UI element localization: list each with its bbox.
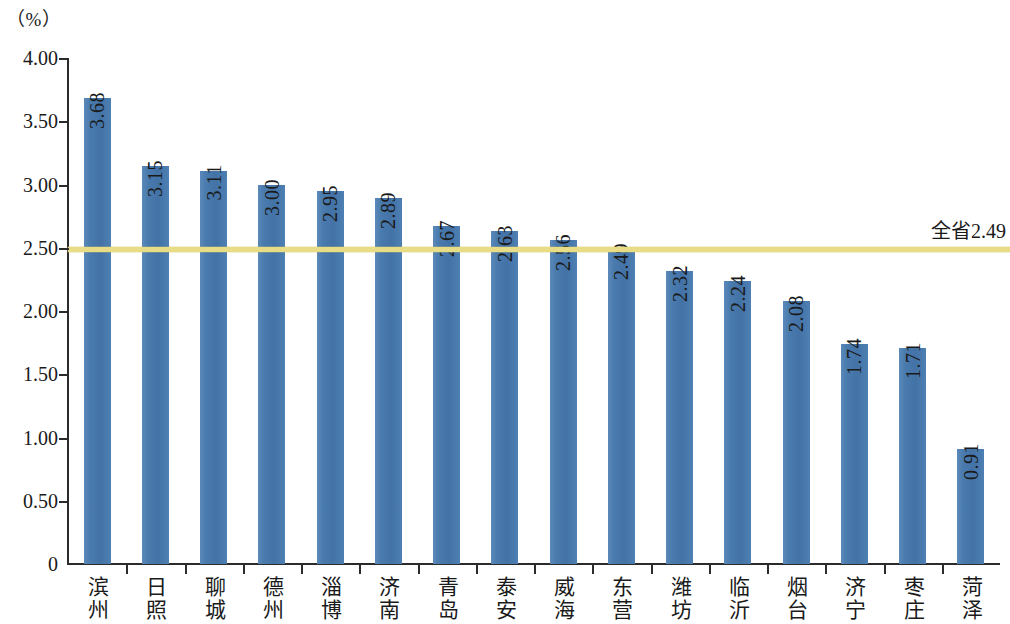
x-axis-tick bbox=[301, 563, 303, 574]
x-axis-category-label: 临沂 bbox=[718, 576, 758, 621]
bar-value-label: 2.32 bbox=[670, 265, 690, 302]
y-axis-tick bbox=[59, 501, 69, 503]
category-label-text: 烟台 bbox=[785, 576, 807, 621]
x-axis-category-label: 日照 bbox=[135, 576, 175, 621]
x-axis-category-label: 枣庄 bbox=[893, 576, 933, 621]
y-axis-tick-label: 2.00 bbox=[0, 301, 58, 321]
x-axis-category-label: 滨州 bbox=[77, 576, 117, 621]
bar[interactable] bbox=[608, 249, 635, 564]
x-axis-category-label: 德州 bbox=[252, 576, 292, 621]
x-axis-tick bbox=[767, 563, 769, 574]
category-label-text: 菏泽 bbox=[960, 576, 982, 621]
x-axis-tick bbox=[709, 563, 711, 574]
bar[interactable] bbox=[433, 226, 460, 564]
y-axis-tick bbox=[59, 438, 69, 440]
bar[interactable] bbox=[783, 301, 810, 564]
category-label-text: 滨州 bbox=[86, 576, 108, 621]
x-axis-tick bbox=[185, 563, 187, 574]
x-axis-tick bbox=[359, 563, 361, 574]
category-label-text: 青岛 bbox=[436, 576, 458, 621]
y-axis-tick bbox=[59, 374, 69, 376]
category-label-text: 东营 bbox=[610, 576, 632, 621]
x-axis-tick bbox=[884, 563, 886, 574]
bar-value-label: 2.95 bbox=[320, 185, 340, 222]
x-axis-tick bbox=[534, 563, 536, 574]
category-label-text: 临沂 bbox=[727, 576, 749, 621]
x-axis-tick bbox=[825, 563, 827, 574]
category-label-text: 泰安 bbox=[494, 576, 516, 621]
x-axis-tick bbox=[243, 563, 245, 574]
y-axis-tick-label: 0 bbox=[0, 554, 58, 574]
bar[interactable] bbox=[724, 281, 751, 564]
chart-page: （%） 00.501.001.502.002.503.003.504.00 3.… bbox=[0, 0, 1010, 624]
x-axis-tick bbox=[651, 563, 653, 574]
category-label-text: 德州 bbox=[261, 576, 283, 621]
category-label-text: 威海 bbox=[552, 576, 574, 621]
category-label-text: 枣庄 bbox=[902, 576, 924, 621]
bar-value-label: 3.11 bbox=[204, 165, 224, 201]
bar[interactable] bbox=[550, 240, 577, 564]
category-label-text: 聊城 bbox=[203, 576, 225, 621]
plot-area: 3.683.153.113.002.952.892.672.632.562.49… bbox=[68, 58, 1000, 564]
average-reference-label: 全省2.49 bbox=[0, 221, 1006, 241]
x-axis-category-label: 潍坊 bbox=[660, 576, 700, 621]
x-axis-category-label: 聊城 bbox=[194, 576, 234, 621]
bar-value-label: 2.08 bbox=[786, 295, 806, 332]
bar-value-label: 2.24 bbox=[728, 275, 748, 312]
bar[interactable] bbox=[84, 98, 111, 564]
x-axis-category-label: 烟台 bbox=[776, 576, 816, 621]
category-label-text: 淄博 bbox=[319, 576, 341, 621]
y-axis-tick-label: 1.00 bbox=[0, 428, 58, 448]
bar-value-label: 1.74 bbox=[844, 338, 864, 375]
bar-value-label: 0.91 bbox=[961, 443, 981, 480]
category-label-text: 日照 bbox=[144, 576, 166, 621]
y-axis-tick bbox=[59, 248, 69, 250]
y-axis-tick-label: 3.50 bbox=[0, 111, 58, 131]
y-axis-tick-label: 4.00 bbox=[0, 48, 58, 68]
x-axis-category-label: 菏泽 bbox=[951, 576, 991, 621]
bar-value-label: 1.71 bbox=[903, 342, 923, 379]
x-axis-category-label: 济南 bbox=[368, 576, 408, 621]
x-axis-category-label: 东营 bbox=[601, 576, 641, 621]
x-axis-tick bbox=[126, 563, 128, 574]
x-axis-tick bbox=[592, 563, 594, 574]
y-axis-tick bbox=[59, 185, 69, 187]
x-axis-category-label: 济宁 bbox=[834, 576, 874, 621]
y-axis-tick-labels: 00.501.001.502.002.503.003.504.00 bbox=[0, 0, 58, 624]
bar-value-label: 3.00 bbox=[262, 179, 282, 216]
x-axis-category-label: 淄博 bbox=[310, 576, 350, 621]
bar[interactable] bbox=[841, 344, 868, 564]
bar-value-label: 3.15 bbox=[145, 160, 165, 197]
x-axis-tick bbox=[418, 563, 420, 574]
bar[interactable] bbox=[258, 185, 285, 565]
bar-value-label: 3.68 bbox=[87, 92, 107, 129]
x-axis-category-label: 泰安 bbox=[485, 576, 525, 621]
x-axis-tick bbox=[942, 563, 944, 574]
category-label-text: 济南 bbox=[377, 576, 399, 621]
x-axis-category-label: 威海 bbox=[543, 576, 583, 621]
average-reference-line bbox=[68, 247, 1010, 252]
bar[interactable] bbox=[375, 198, 402, 564]
x-axis-category-label: 青岛 bbox=[427, 576, 467, 621]
bar[interactable] bbox=[491, 231, 518, 564]
bar[interactable] bbox=[899, 348, 926, 564]
y-axis-tick-label: 1.50 bbox=[0, 364, 58, 384]
bar[interactable] bbox=[666, 271, 693, 564]
y-axis-tick-label: 3.00 bbox=[0, 175, 58, 195]
category-label-text: 济宁 bbox=[843, 576, 865, 621]
y-axis-tick bbox=[59, 311, 69, 313]
y-axis-tick bbox=[59, 121, 69, 123]
category-label-text: 潍坊 bbox=[669, 576, 691, 621]
y-axis-tick bbox=[59, 58, 69, 60]
y-axis-tick-label: 0.50 bbox=[0, 491, 58, 511]
x-axis-tick bbox=[476, 563, 478, 574]
